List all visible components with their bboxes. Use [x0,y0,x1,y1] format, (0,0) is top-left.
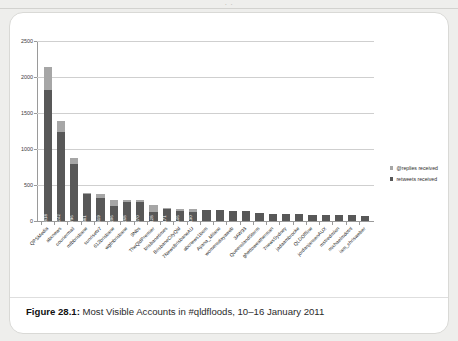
bar-segment-replies[interactable] [136,200,144,202]
bar-value-label: 128 [149,215,154,222]
x-tick-mark [200,222,201,225]
y-tick-label: 2500 [9,38,33,44]
bar-group[interactable] [361,216,369,221]
bar-segment-retweets[interactable] [242,211,250,221]
book-page: · · 05001000150020002500 181812427963813… [0,0,458,341]
x-tick-mark [266,222,267,225]
x-tick-mark [279,222,280,225]
bar-segment-retweets[interactable] [57,132,65,221]
bar-group[interactable] [242,211,250,221]
figure-caption-text: Most Visible Accounts in #qldfloods, 10–… [80,306,324,317]
figure-caption: Figure 28.1: Most Visible Accounts in #q… [26,305,438,318]
bar-segment-replies[interactable] [57,121,65,132]
bar-group[interactable]: 270 [136,200,144,221]
bar-group[interactable] [322,215,330,221]
x-tick-mark [41,222,42,225]
bar-group[interactable] [335,215,343,221]
y-tick-label: 0 [9,218,33,224]
bar-group[interactable] [216,210,224,221]
bar-group[interactable]: 1818 [44,67,52,221]
x-tick-mark [147,222,148,225]
bar-value-label: 268 [122,215,127,222]
x-tick-mark [94,222,95,225]
figure-card: 05001000150020002500 1818124279638131920… [9,12,449,334]
replies-swatch [390,166,393,169]
bar-group[interactable] [348,215,356,221]
retweets-swatch [390,177,393,180]
bar-value-label: 270 [135,215,140,222]
bar-group[interactable] [282,214,290,221]
bar-segment-replies[interactable] [44,67,52,90]
bar-segment-retweets[interactable] [308,215,316,221]
bar-segment-retweets[interactable] [322,215,330,221]
bar-group[interactable]: 130 [189,209,197,221]
bar-value-label: 146 [175,215,180,222]
bar-group[interactable] [202,210,210,221]
legend-item-label: @replies received [396,165,438,171]
bar-segment-retweets[interactable] [216,210,224,221]
bar-segment-retweets[interactable] [255,213,263,221]
bar-group[interactable] [308,215,316,221]
bar-value-label: 796 [69,215,74,222]
chart-legend: @replies receivedretweets received [390,165,438,187]
bar-segment-retweets[interactable] [70,164,78,221]
y-tick-label: 2000 [9,74,33,80]
y-tick-label: 1500 [9,110,33,116]
page-top-rule [0,8,458,9]
bar-group[interactable] [229,211,237,221]
bar-group[interactable]: 171 [163,208,171,221]
bar-group[interactable]: 206 [110,200,118,221]
bar-segment-retweets[interactable] [348,215,356,221]
bar-group[interactable] [295,214,303,221]
bar-segment-retweets[interactable] [335,215,343,221]
x-tick-mark [240,222,241,225]
bar-segment-retweets[interactable] [295,214,303,221]
bar-group[interactable]: 796 [70,158,78,222]
bar-group[interactable]: 268 [123,200,131,221]
bar-segment-replies[interactable] [110,200,118,207]
x-tick-mark [160,222,161,225]
bar-segment-replies[interactable] [83,193,91,194]
bar-segment-retweets[interactable] [269,214,277,221]
legend-item[interactable]: @replies received [390,165,438,171]
bar-group[interactable] [255,213,263,221]
bar-value-label: 1242 [56,214,61,224]
y-tick-label: 1000 [9,146,33,152]
bar-value-label: 1818 [43,214,48,224]
x-axis-category-label: QPSMedia [29,226,50,247]
bar-segment-replies[interactable] [163,208,171,209]
figure-number: Figure 28.1: [26,306,80,317]
x-tick-mark [346,222,347,225]
bar-value-label: 130 [188,215,193,222]
bar-segment-retweets[interactable] [361,216,369,221]
plot-region: 05001000150020002500 1818124279638131920… [37,41,374,221]
legend-item-label: retweets received [396,176,437,182]
bar-group[interactable]: 319 [96,194,104,221]
bar-group[interactable]: 146 [176,209,184,221]
caption-separator [10,297,449,298]
chart-area: 05001000150020002500 1818124279638131920… [10,13,449,297]
x-tick-mark [319,222,320,225]
x-tick-mark [306,222,307,225]
bar-group[interactable]: 381 [83,193,91,221]
x-tick-mark [293,222,294,225]
bar-value-label: 171 [162,215,167,222]
bar-segment-retweets[interactable] [282,214,290,221]
bar-segment-replies[interactable] [149,205,157,212]
bar-segment-replies[interactable] [96,194,104,198]
bar-group[interactable]: 1242 [57,121,65,221]
bar-series-container: 18181242796381319206268270128171146130 [37,41,374,222]
bar-segment-retweets[interactable] [44,90,52,221]
x-tick-mark [226,222,227,225]
bar-segment-retweets[interactable] [229,211,237,221]
bar-segment-replies[interactable] [189,209,197,211]
bar-segment-retweets[interactable] [202,210,210,221]
bar-group[interactable]: 128 [149,205,157,221]
bar-segment-replies[interactable] [70,158,78,164]
bar-group[interactable] [269,214,277,221]
bar-segment-replies[interactable] [176,209,184,210]
bar-value-label: 319 [96,215,101,222]
bar-value-label: 206 [109,215,114,222]
legend-item[interactable]: retweets received [390,176,438,182]
bar-segment-replies[interactable] [123,200,131,202]
